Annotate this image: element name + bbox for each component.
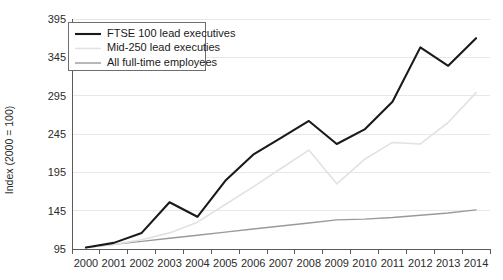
x-axis-tick-label: 2002 [129,257,153,269]
legend-label: All full-time employees [107,56,218,68]
y-axis-title: Index (2000 = 100) [3,106,15,194]
x-axis-tick-label: 2003 [157,257,181,269]
x-axis-tick-label: 2001 [102,257,126,269]
x-axis-tick-label: 2012 [408,257,432,269]
x-axis-tick-label: 2010 [352,257,376,269]
legend-label: FTSE 100 lead executives [107,27,236,39]
y-axis-tick-labels: 95145195245295345395 [48,13,66,255]
chart-container: 95145195245295345395 2000200120022003200… [0,0,503,280]
x-axis-tick-label: 2014 [464,257,488,269]
x-axis-tick-marks [72,249,490,254]
x-axis-tick-label: 2000 [74,257,98,269]
y-axis-tick-label: 145 [48,205,66,217]
x-axis-tick-label: 2009 [324,257,348,269]
y-axis-tick-label: 195 [48,166,66,178]
x-axis-tick-label: 2004 [185,257,209,269]
x-axis-tick-label: 2011 [381,257,405,269]
x-axis-tick-label: 2005 [213,257,237,269]
series-line [86,93,476,248]
y-axis-tick-label: 395 [48,13,66,25]
x-axis-tick-label: 2007 [269,257,293,269]
x-axis-tick-labels: 2000200120022003200420052006200720082009… [74,257,489,269]
y-axis-tick-label: 345 [48,51,66,63]
y-axis-tick-label: 245 [48,128,66,140]
chart-legend: FTSE 100 lead executivesMid-250 lead exe… [69,23,236,71]
y-axis-tick-label: 295 [48,90,66,102]
y-axis-tick-label: 95 [54,243,66,255]
x-axis-tick-label: 2006 [241,257,265,269]
x-axis-tick-label: 2008 [297,257,321,269]
x-axis-tick-label: 2013 [436,257,460,269]
legend-label: Mid-250 lead executies [107,41,221,53]
line-chart: 95145195245295345395 2000200120022003200… [0,0,503,280]
